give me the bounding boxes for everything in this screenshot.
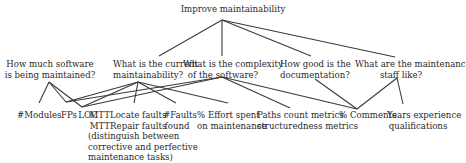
edge-layer <box>0 0 466 163</box>
edge-q1-loc <box>49 82 82 107</box>
metric-fps: FPs <box>60 110 78 121</box>
metric-faults-found: #Faults found <box>163 110 191 131</box>
goal-node: Improve maintainability <box>171 4 295 15</box>
metric-paths-count: Paths count metrics structuredness metri… <box>257 110 341 131</box>
edge-q5-comments <box>357 78 397 109</box>
metric-effort-spent: % Effort spent on maintenance <box>197 110 257 131</box>
edge-goal-q4 <box>222 20 311 56</box>
edge-q2-mtt <box>134 82 138 103</box>
question-maintenance-staff: What are the maintenance staff like? <box>355 59 447 80</box>
metric-mtt: MTTLocate faults MTTRepair faults (disti… <box>88 110 168 163</box>
edge-q1-modules <box>39 82 49 103</box>
metric-comments: % Comments <box>339 110 387 121</box>
goal-label: Improve maintainability <box>171 4 295 15</box>
metric-years-experience: Years experience qualifications <box>387 110 449 131</box>
edge-q3-paths <box>222 77 290 108</box>
question-how-much-software: How much software is being maintained? <box>0 59 100 80</box>
question-documentation: How good is the documentation? <box>280 59 340 80</box>
question-complexity: What is the complexity of the software? <box>183 59 263 80</box>
metric-modules: #Modules <box>17 110 57 121</box>
edge-q1-fps <box>49 82 66 102</box>
edge-q5-years <box>397 78 403 104</box>
edge-goal-q2 <box>159 20 222 56</box>
edge-q3-comments <box>222 77 357 109</box>
edge-q3-fps <box>66 77 222 102</box>
question-current-maintainability: What is the current maintainability? <box>113 59 179 80</box>
edge-goal-q5 <box>222 20 395 57</box>
